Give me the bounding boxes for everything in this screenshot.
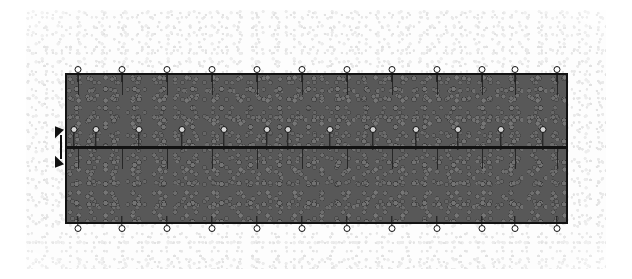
pin-support-top-9 (476, 66, 488, 92)
pin-support-bot-3 (206, 216, 218, 242)
pin-support-bot-9 (476, 216, 488, 242)
pin-stem (556, 73, 557, 82)
pin-support-top-4 (251, 66, 263, 92)
pin-ring-icon (512, 66, 519, 73)
pin-support-top-0 (72, 66, 84, 92)
pin-support-mid-5 (261, 126, 273, 152)
pin-support-bot-4 (251, 216, 263, 242)
pin-stem (301, 73, 302, 82)
pin-stem (329, 133, 330, 150)
pin-support-top-10 (509, 66, 521, 92)
pin-support-mid-7 (324, 126, 336, 152)
pin-stem (287, 133, 288, 150)
pin-support-mid-11 (495, 126, 507, 152)
pin-ring-icon (434, 225, 441, 232)
pin-ring-icon (554, 66, 561, 73)
pin-support-top-1 (116, 66, 128, 92)
grid-tick-lower-5 (302, 149, 303, 169)
figure-canvas (0, 0, 632, 279)
pin-support-mid-10 (452, 126, 464, 152)
pin-ring-icon (93, 126, 100, 133)
pin-stem (415, 133, 416, 150)
pin-stem (514, 73, 515, 82)
pin-ring-icon (285, 126, 292, 133)
pin-stem (266, 133, 267, 150)
pin-ring-icon (179, 126, 186, 133)
grid-tick-lower-8 (437, 149, 438, 169)
pin-stem (346, 73, 347, 82)
pin-stem (514, 216, 515, 225)
pin-ring-icon (75, 225, 82, 232)
pin-stem (556, 216, 557, 225)
pin-stem (391, 73, 392, 82)
pin-stem (95, 133, 96, 150)
pin-support-mid-1 (90, 126, 102, 152)
pin-support-mid-9 (410, 126, 422, 152)
arrow-shaft (60, 135, 62, 159)
grid-tick-lower-0 (78, 149, 79, 169)
pin-ring-icon (164, 225, 171, 232)
pin-ring-icon (479, 66, 486, 73)
pin-support-mid-12 (537, 126, 549, 152)
pin-support-mid-2 (133, 126, 145, 152)
grid-tick-lower-1 (122, 149, 123, 169)
pin-ring-icon (389, 66, 396, 73)
pin-support-bot-1 (116, 216, 128, 242)
pin-ring-icon (254, 225, 261, 232)
pin-stem (223, 133, 224, 150)
pin-support-top-5 (296, 66, 308, 92)
pin-ring-icon (299, 66, 306, 73)
pin-stem (542, 133, 543, 150)
pin-support-mid-6 (282, 126, 294, 152)
pin-stem (138, 133, 139, 150)
pin-support-bot-6 (341, 216, 353, 242)
pin-ring-icon (264, 126, 271, 133)
pin-stem (500, 133, 501, 150)
pin-stem (121, 73, 122, 82)
pin-stem (391, 216, 392, 225)
pin-stem (457, 133, 458, 150)
pin-ring-icon (479, 225, 486, 232)
grid-tick-lower-4 (257, 149, 258, 169)
pin-ring-icon (455, 126, 462, 133)
pin-ring-icon (413, 126, 420, 133)
pin-stem (372, 133, 373, 150)
pin-support-mid-0 (68, 126, 80, 152)
pin-stem (166, 216, 167, 225)
grid-tick-lower-11 (557, 149, 558, 169)
pin-stem (77, 73, 78, 82)
grid-tick-lower-7 (392, 149, 393, 169)
pin-support-top-6 (341, 66, 353, 92)
pin-stem (77, 216, 78, 225)
pin-ring-icon (71, 126, 78, 133)
grid-tick-lower-6 (347, 149, 348, 169)
pin-stem (256, 73, 257, 82)
pin-stem (436, 73, 437, 82)
pin-stem (481, 73, 482, 82)
pin-support-bot-0 (72, 216, 84, 242)
pin-ring-icon (164, 66, 171, 73)
pin-stem (121, 216, 122, 225)
pin-ring-icon (254, 66, 261, 73)
pin-stem (256, 216, 257, 225)
pin-stem (73, 133, 74, 150)
pin-support-bot-7 (386, 216, 398, 242)
pin-ring-icon (221, 126, 228, 133)
pin-stem (211, 73, 212, 82)
pin-stem (346, 216, 347, 225)
pin-support-top-2 (161, 66, 173, 92)
pin-ring-icon (119, 225, 126, 232)
pin-support-mid-4 (218, 126, 230, 152)
pin-support-bot-10 (509, 216, 521, 242)
pin-stem (301, 216, 302, 225)
pin-support-mid-3 (176, 126, 188, 152)
pin-stem (436, 216, 437, 225)
pin-ring-icon (299, 225, 306, 232)
pin-support-bot-5 (296, 216, 308, 242)
pin-support-bot-8 (431, 216, 443, 242)
pin-stem (166, 73, 167, 82)
pin-stem (211, 216, 212, 225)
pin-ring-icon (512, 225, 519, 232)
pin-stem (481, 216, 482, 225)
pin-support-top-7 (386, 66, 398, 92)
